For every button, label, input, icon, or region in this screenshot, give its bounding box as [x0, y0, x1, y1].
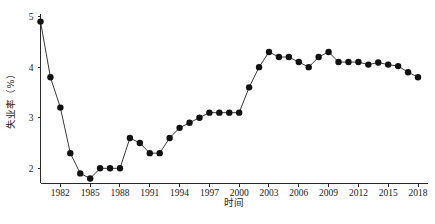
data-point: [57, 104, 63, 110]
x-tick-label: 1994: [170, 188, 189, 198]
x-tick-label: 2018: [409, 188, 428, 198]
data-point: [385, 61, 391, 67]
data-point: [266, 49, 272, 55]
data-point: [415, 74, 421, 80]
data-point: [335, 59, 341, 65]
y-tick-label: 3: [29, 113, 34, 123]
data-point: [405, 69, 411, 75]
data-point: [216, 109, 222, 115]
unemployment-rate-line-chart: 2345 19821985198819911994199720002003200…: [0, 0, 435, 224]
data-point: [286, 54, 292, 60]
data-point: [47, 74, 53, 80]
x-tick-label: 2012: [349, 188, 368, 198]
y-tick-label: 2: [29, 164, 34, 174]
series-markers: [37, 18, 421, 181]
data-point: [186, 120, 192, 126]
data-point: [395, 63, 401, 69]
data-point: [87, 175, 93, 181]
data-point: [147, 150, 153, 156]
x-tick-label: 1997: [200, 188, 219, 198]
data-point: [365, 61, 371, 67]
x-tick-label: 2006: [289, 188, 308, 198]
data-point: [355, 59, 361, 65]
data-series-group: [37, 18, 421, 181]
data-point: [226, 109, 232, 115]
data-point: [107, 165, 113, 171]
y-tick-labels: 2345: [29, 12, 34, 174]
x-tick-label: 1988: [110, 188, 129, 198]
y-axis: 2345: [29, 12, 41, 183]
data-point: [206, 109, 212, 115]
data-point: [325, 49, 331, 55]
series-line-unemployment: [41, 22, 419, 179]
data-point: [166, 135, 172, 141]
data-point: [196, 115, 202, 121]
data-point: [127, 135, 133, 141]
data-point: [137, 140, 143, 146]
y-tick-label: 4: [29, 63, 34, 73]
data-point: [77, 170, 83, 176]
figure-caption: [0, 216, 435, 224]
data-point: [176, 125, 182, 131]
data-point: [306, 64, 312, 70]
data-point: [37, 18, 43, 24]
x-tick-label: 2015: [379, 188, 398, 198]
data-point: [345, 59, 351, 65]
y-tick-label: 5: [29, 12, 34, 22]
x-tick-label: 2003: [259, 188, 278, 198]
data-point: [296, 59, 302, 65]
x-tick-label: 1982: [51, 188, 70, 198]
x-tick-label: 1985: [81, 188, 100, 198]
data-point: [67, 150, 73, 156]
data-point: [375, 59, 381, 65]
data-point: [97, 165, 103, 171]
data-point: [315, 54, 321, 60]
y-axis-title: 失业率（%）: [5, 69, 16, 128]
data-point: [276, 54, 282, 60]
data-point: [236, 109, 242, 115]
x-axis: 1982198519881991199419972000200320062009…: [41, 184, 429, 199]
chart-figure: 2345 19821985198819911994199720002003200…: [0, 0, 435, 224]
data-point: [157, 150, 163, 156]
x-tick-label: 1991: [140, 188, 159, 198]
data-point: [256, 64, 262, 70]
data-point: [117, 165, 123, 171]
x-tick-label: 2009: [319, 188, 338, 198]
x-axis-title: 时间: [224, 197, 244, 208]
data-point: [246, 84, 252, 90]
